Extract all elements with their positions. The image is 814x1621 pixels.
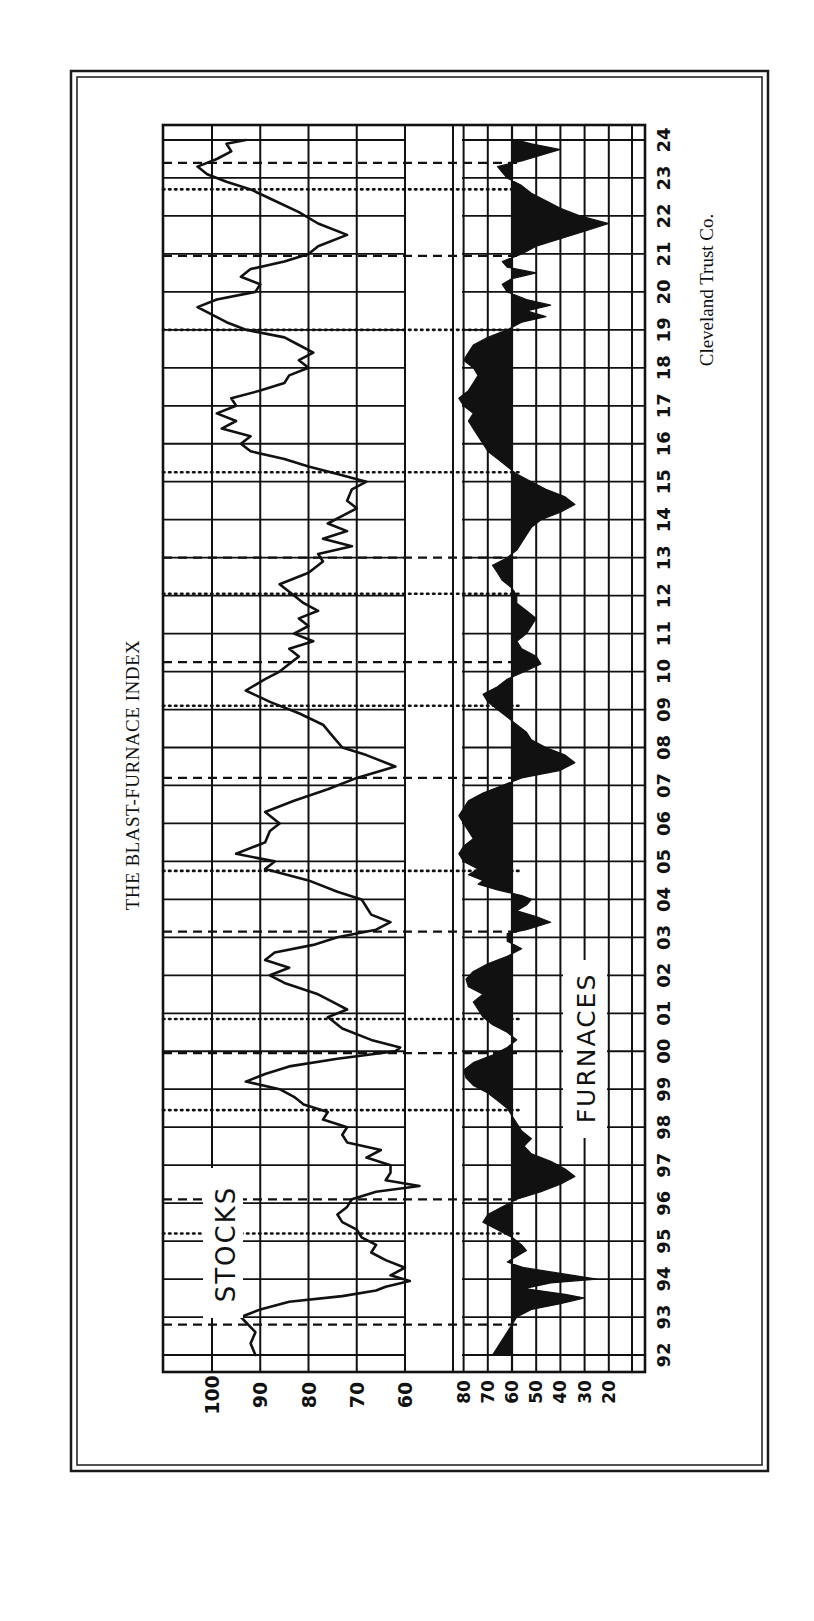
furnaces-series xyxy=(459,125,609,1372)
year-tick-label: 15 xyxy=(653,469,674,494)
stocks-tick-label: 60 xyxy=(394,1382,416,1408)
stocks-tick-label: 70 xyxy=(346,1382,368,1408)
year-tick-label: 20 xyxy=(653,279,674,304)
furnaces-tick-label: 40 xyxy=(550,1380,570,1404)
year-tick-label: 95 xyxy=(653,1229,674,1254)
year-tick-label: 02 xyxy=(653,963,674,988)
year-tick-label: 06 xyxy=(653,811,674,836)
year-tick-label: 10 xyxy=(653,659,674,684)
reference-lines xyxy=(163,163,522,1325)
year-tick-label: 21 xyxy=(653,241,674,266)
year-tick-label: 16 xyxy=(653,431,674,456)
furnaces-tick-label: 80 xyxy=(454,1380,474,1404)
year-tick-label: 11 xyxy=(653,621,674,646)
year-tick-label: 12 xyxy=(653,583,674,608)
furnaces-label: FURNACES xyxy=(572,973,601,1124)
year-tick-label: 03 xyxy=(653,925,674,950)
year-tick-label: 07 xyxy=(653,773,674,798)
furnaces-tick-label: 20 xyxy=(599,1380,619,1404)
year-tick-label: 01 xyxy=(653,1001,674,1026)
year-tick-label: 14 xyxy=(653,507,674,532)
year-tick-label: 19 xyxy=(653,317,674,342)
furnaces-tick-label: 60 xyxy=(502,1380,522,1404)
furnaces-tick-label: 70 xyxy=(478,1380,498,1404)
year-tick-label: 92 xyxy=(653,1342,674,1367)
year-tick-label: 97 xyxy=(653,1153,674,1178)
chart-credit: Cleveland Trust Co. xyxy=(696,214,717,367)
year-tick-label: 96 xyxy=(653,1191,674,1216)
blast-furnace-index-chart: 1009080706080706050403020929394959697989… xyxy=(0,0,814,1621)
year-tick-label: 17 xyxy=(653,393,674,418)
stocks-tick-label: 100 xyxy=(201,1375,223,1415)
year-tick-label: 18 xyxy=(653,355,674,380)
year-tick-label: 00 xyxy=(653,1039,674,1064)
axis-labels: 1009080706080706050403020929394959697989… xyxy=(201,127,674,1414)
year-tick-label: 94 xyxy=(653,1267,674,1292)
year-tick-label: 24 xyxy=(653,127,674,152)
stocks-label: STOCKS xyxy=(211,1186,241,1303)
furnaces-tick-label: 50 xyxy=(526,1380,546,1404)
year-tick-label: 23 xyxy=(653,165,674,190)
furnaces-tick-label: 30 xyxy=(575,1380,595,1404)
stocks-tick-label: 90 xyxy=(249,1382,271,1408)
year-tick-label: 98 xyxy=(653,1115,674,1140)
year-tick-label: 22 xyxy=(653,203,674,228)
year-tick-label: 09 xyxy=(653,697,674,722)
year-tick-label: 99 xyxy=(653,1077,674,1102)
year-tick-label: 05 xyxy=(653,849,674,874)
year-tick-label: 04 xyxy=(653,887,674,912)
year-tick-label: 08 xyxy=(653,735,674,760)
stocks-tick-label: 80 xyxy=(298,1382,320,1408)
year-tick-label: 13 xyxy=(653,545,674,570)
chart-title: THE BLAST-FURNACE INDEX xyxy=(122,640,143,910)
year-tick-label: 93 xyxy=(653,1305,674,1330)
